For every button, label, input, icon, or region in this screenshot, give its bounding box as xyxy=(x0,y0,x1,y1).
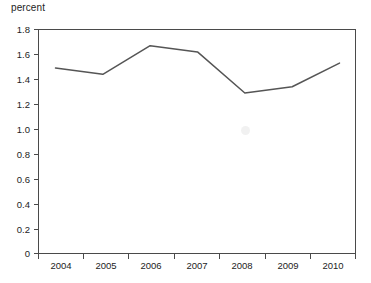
x-tick-label: 2008 xyxy=(231,260,252,271)
axis-frame xyxy=(39,30,356,254)
data-series-line xyxy=(56,46,340,93)
x-tick-label: 2006 xyxy=(140,260,161,271)
x-tick-label: 2007 xyxy=(186,260,207,271)
plot-area: 1.8 1.6 1.4 1.2 1.0 0.8 0.6 0.4 0.2 0 20… xyxy=(0,0,371,283)
y-tick-label: 1.6 xyxy=(17,49,30,60)
y-tick-label: 0.6 xyxy=(17,174,30,185)
line-chart: percent 1.8 1.6 1.4 1.2 xyxy=(0,0,371,283)
x-tick-label: 2010 xyxy=(322,260,343,271)
y-tick-label: 1.0 xyxy=(17,124,30,135)
x-tick-label: 2009 xyxy=(277,260,298,271)
x-tick-label: 2004 xyxy=(50,260,71,271)
y-tick-label: 1.2 xyxy=(17,99,30,110)
y-tick-label: 0.2 xyxy=(17,224,30,235)
x-axis-tick-labels: 2004 2005 2006 2007 2008 2009 2010 xyxy=(50,260,343,271)
y-tick-label: 1.8 xyxy=(17,24,30,35)
y-tick-label: 0.4 xyxy=(17,199,30,210)
y-axis-tick-labels: 1.8 1.6 1.4 1.2 1.0 0.8 0.6 0.4 0.2 0 xyxy=(17,24,30,259)
y-tick-label: 0.8 xyxy=(17,149,30,160)
y-tick-label: 1.4 xyxy=(17,74,30,85)
x-tick-label: 2005 xyxy=(95,260,116,271)
y-axis-ticks xyxy=(34,30,39,254)
y-tick-label: 0 xyxy=(25,248,30,259)
x-axis-ticks xyxy=(39,254,356,259)
